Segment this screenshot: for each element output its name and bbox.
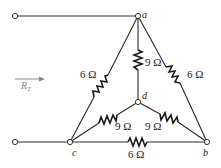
- rt-label: RT: [20, 80, 32, 93]
- node-a: [135, 13, 140, 18]
- node-c-label: c: [72, 147, 77, 158]
- circuit-diagram: 6 Ω 6 Ω 6 Ω 9 Ω 9 Ω 9 Ω a d c b: [0, 0, 221, 168]
- node-c: [67, 139, 72, 144]
- label-bd: 9 Ω: [145, 120, 161, 132]
- input-terminal-bottom: [12, 139, 17, 144]
- node-b: [204, 139, 209, 144]
- label-ad: 9 Ω: [145, 56, 161, 68]
- input-terminal-top: [12, 13, 17, 18]
- label-ab: 6 Ω: [187, 68, 203, 80]
- circuit-svg: 6 Ω 6 Ω 6 Ω 9 Ω 9 Ω 9 Ω a d c b: [0, 0, 221, 168]
- resistor-cb: [70, 138, 207, 146]
- label-cb: 6 Ω: [128, 148, 144, 160]
- node-d-label: d: [142, 90, 148, 101]
- node-b-label: b: [203, 147, 208, 158]
- label-ca: 6 Ω: [80, 68, 96, 80]
- node-a-label: a: [142, 9, 147, 20]
- rt-arrow-icon: [15, 77, 45, 82]
- resistor-ad: [134, 16, 142, 102]
- label-cd: 9 Ω: [115, 120, 131, 132]
- node-d: [135, 99, 140, 104]
